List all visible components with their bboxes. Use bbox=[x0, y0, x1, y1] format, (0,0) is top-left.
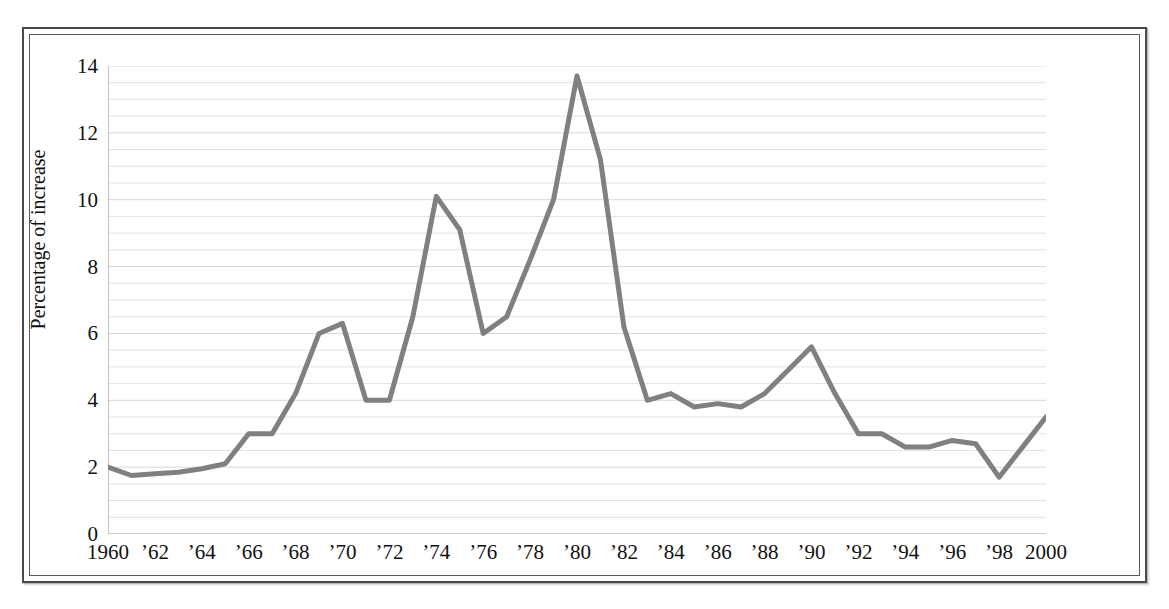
y-axis-tick-label: 8 bbox=[58, 256, 98, 277]
x-axis-tick-label: ’76 bbox=[469, 542, 497, 563]
x-axis-tick-label: ’62 bbox=[141, 542, 169, 563]
x-axis-tick-labels: 1960’62’64’66’68’70’72’74’76’78’80’82’84… bbox=[108, 542, 1046, 572]
x-axis-tick-label: 1960 bbox=[87, 542, 129, 563]
line-chart-svg bbox=[108, 66, 1046, 534]
y-axis-tick-labels: 02468101214 bbox=[50, 66, 98, 534]
chart-figure: Percentage of increase 02468101214 1960’… bbox=[0, 0, 1169, 609]
x-axis-tick-label: ’80 bbox=[563, 542, 591, 563]
y-axis-tick-label: 10 bbox=[58, 189, 98, 210]
x-axis-tick-label: ’72 bbox=[375, 542, 403, 563]
plot-area bbox=[108, 66, 1046, 534]
y-axis-tick-label: 2 bbox=[58, 457, 98, 478]
x-axis-tick-label: ’90 bbox=[798, 542, 826, 563]
x-axis-tick-label: ’82 bbox=[610, 542, 638, 563]
x-axis-tick-label: ’78 bbox=[516, 542, 544, 563]
x-axis-tick-label: ’94 bbox=[891, 542, 919, 563]
gridlines-minor bbox=[108, 83, 1046, 518]
y-axis-tick-label: 6 bbox=[58, 323, 98, 344]
y-axis-tick-label: 14 bbox=[58, 56, 98, 77]
x-axis-tick-label: ’68 bbox=[282, 542, 310, 563]
x-axis-tick-label: ’70 bbox=[329, 542, 357, 563]
x-axis-tick-label: ’64 bbox=[188, 542, 216, 563]
y-axis-tick-label: 4 bbox=[58, 390, 98, 411]
x-axis-tick-label: ’66 bbox=[235, 542, 263, 563]
y-axis-tick-label: 12 bbox=[58, 122, 98, 143]
x-axis-tick-label: ’88 bbox=[751, 542, 779, 563]
x-axis-tick-label: ’98 bbox=[985, 542, 1013, 563]
y-axis-title: Percentage of increase bbox=[27, 70, 50, 410]
gridlines-major bbox=[108, 66, 1046, 467]
x-axis-tick-label: ’74 bbox=[422, 542, 450, 563]
x-axis-tick-label: ’92 bbox=[844, 542, 872, 563]
x-axis-tick-label: 2000 bbox=[1025, 542, 1067, 563]
x-axis-tick-label: ’86 bbox=[704, 542, 732, 563]
x-axis-tick-label: ’84 bbox=[657, 542, 685, 563]
x-axis-tick-label: ’96 bbox=[938, 542, 966, 563]
